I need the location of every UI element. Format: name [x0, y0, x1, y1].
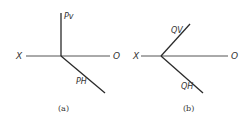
caption-b: (b)	[183, 104, 194, 113]
axis-o-label-a: O	[113, 51, 120, 61]
axis-o-label-b: O	[231, 51, 238, 61]
trace-ph-label: PH	[76, 77, 87, 86]
caption-a: (a)	[58, 104, 69, 113]
figure-a: X O Pv PH (a)	[15, 12, 120, 113]
trace-qh-label: QH	[181, 82, 193, 91]
axis-x-label-a: X	[15, 51, 23, 61]
axis-x-label-b: X	[132, 51, 140, 61]
trace-ph-line	[61, 56, 105, 93]
figure-b: X O QV QH (b)	[132, 24, 238, 113]
trace-qv-label: QV	[171, 26, 183, 35]
trace-pv-label: Pv	[64, 12, 74, 21]
diagram-canvas: X O Pv PH (a) X O QV QH (b)	[0, 0, 251, 117]
